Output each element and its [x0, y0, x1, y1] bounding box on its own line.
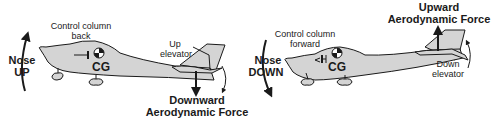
pitch-label-line1: Nose [9, 54, 36, 66]
force-label-line2: Aerodynamic Force [388, 13, 491, 25]
elevator-label-line2: elevator [432, 69, 464, 79]
control-column-label-line1: Control column [51, 21, 112, 31]
elevator-deflection-arrow-icon [222, 66, 226, 91]
elevator-diagram: Nose UP Control column back CG [0, 0, 495, 121]
control-column-label-line2: forward [290, 39, 320, 49]
pitch-label-line1: Nose [255, 54, 282, 66]
control-column-label-line1: Control column [275, 29, 336, 39]
main-gear [89, 75, 103, 85]
pitch-label-line2: UP [14, 66, 29, 78]
cg-symbol-icon [332, 48, 342, 58]
force-label-line1: Upward [419, 1, 459, 13]
elevator-label-line1: Down [436, 59, 459, 69]
cg-label: CG [92, 60, 110, 74]
elevator-label-line2: elevator [160, 49, 192, 59]
elevator-label-line1: Up [169, 39, 181, 49]
cg-symbol-icon [94, 48, 104, 58]
force-label-line2: Aerodynamic Force [146, 106, 249, 118]
elevator-deflection-arrow-icon [467, 42, 470, 68]
nose-down-panel: Nose DOWN Control column forward CG [249, 1, 491, 93]
force-label-line1: Downward [169, 94, 225, 106]
control-column-label-line2: back [71, 31, 91, 41]
nose-up-panel: Nose UP Control column back CG [9, 21, 249, 118]
pitch-label-line2: DOWN [249, 66, 284, 78]
cg-label: CG [328, 60, 346, 74]
